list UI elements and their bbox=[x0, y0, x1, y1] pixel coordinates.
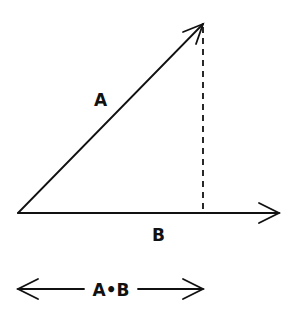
vector-b bbox=[18, 203, 279, 223]
vector-a bbox=[18, 24, 203, 213]
vector-a-label: A bbox=[94, 90, 108, 110]
dot-product-label: A•B bbox=[93, 280, 130, 300]
vector-b-label: B bbox=[152, 225, 165, 245]
dot-product-diagram: A B A•B bbox=[0, 0, 297, 316]
